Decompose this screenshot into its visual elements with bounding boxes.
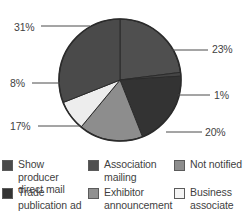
callout-8-value-label: 8% <box>10 78 25 89</box>
callout-20-value-label: 20% <box>205 127 225 138</box>
legend-row: Show producer direct mailAssociation mai… <box>0 159 252 185</box>
legend-swatch-association-mailing <box>88 160 99 171</box>
callout-1-value-label: 1% <box>214 90 229 101</box>
legend-swatch-exhibitor-announcement <box>88 188 99 199</box>
callout-17-value-label: 17% <box>10 121 30 132</box>
legend-label-trade-publication-ad: Trade publication ad <box>18 186 86 211</box>
legend-label-not-notified: Not notified <box>190 158 252 171</box>
legend-row: Trade publication adExhibitor announceme… <box>0 187 252 213</box>
legend-label-exhibitor-announcement: Exhibitor announcement <box>104 186 172 211</box>
legend-swatch-business-associate <box>174 188 185 199</box>
callout-23-value-label: 23% <box>212 44 232 55</box>
pie-slices <box>59 19 181 141</box>
chart-plot-area: 31%23%1%20%17%8% <box>0 0 252 155</box>
legend-label-business-associate: Business associate <box>190 186 252 211</box>
legend-label-association-mailing: Association mailing <box>104 158 172 183</box>
legend-swatch-not-notified <box>174 160 185 171</box>
legend-swatch-trade-publication-ad <box>2 188 13 199</box>
callout-31-value-label: 31% <box>14 22 34 33</box>
legend-swatch-show-producer-direct-mail <box>2 160 13 171</box>
pie-chart-figure: 31%23%1%20%17%8% Show producer direct ma… <box>0 0 252 214</box>
chart-legend: Show producer direct mailAssociation mai… <box>0 157 252 214</box>
